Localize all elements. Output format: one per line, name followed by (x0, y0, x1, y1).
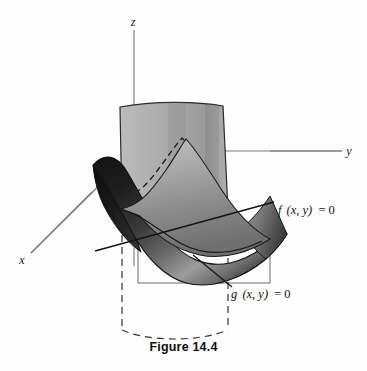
x-axis-label: x (18, 253, 25, 267)
g-equation-label: g (x, y) = 0 (231, 287, 291, 301)
f-equation-label: f (x, y) = 0 (278, 203, 335, 217)
f-equation-relation: = 0 (318, 203, 334, 217)
g-equation-relation: = 0 (274, 287, 290, 301)
g-equation-fn: g (231, 287, 237, 301)
figure-illustration: z y x f (x, y) = 0 g (x, y) = 0 (0, 0, 367, 371)
y-axis-label: y (345, 144, 352, 158)
g-equation-args: (x, y) (242, 287, 268, 301)
f-equation-fn: f (278, 203, 283, 217)
f-equation-args: (x, y) (287, 203, 313, 217)
z-axis-label: z (130, 15, 136, 29)
figure-container: z y x f (x, y) = 0 g (x, y) = 0 Figure 1… (0, 0, 367, 371)
figure-caption: Figure 14.4 (0, 340, 367, 354)
